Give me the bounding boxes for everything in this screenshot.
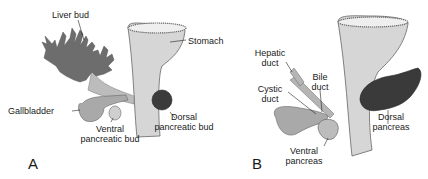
label-line: Ventral: [80, 124, 140, 134]
panel-letter-b: B: [252, 155, 262, 172]
label-stomach: Stomach: [188, 36, 224, 46]
label-line: Bile: [306, 72, 334, 82]
label-hepatic-duct: Hepatic duct: [250, 48, 290, 68]
label-line: Cystic: [252, 84, 288, 94]
panel-b-illustration: [274, 16, 421, 156]
label-line: Dorsal: [368, 112, 414, 122]
ventral-pancreatic-bud: [109, 106, 121, 120]
ventral-pancreas: [318, 119, 338, 139]
diagram-illustration: [0, 0, 428, 179]
label-line: Hepatic: [250, 48, 290, 58]
liver-bud: [42, 28, 114, 82]
label-cystic-duct: Cystic duct: [252, 84, 288, 104]
label-line: pancreatic bud: [152, 122, 216, 132]
label-dorsal-pancreas: Dorsal pancreas: [368, 112, 414, 132]
label-dorsal-pancreatic-bud: Dorsal pancreatic bud: [152, 112, 216, 132]
gallbladder-a: [79, 95, 128, 122]
dorsal-pancreatic-bud: [152, 90, 172, 110]
label-line: pancreatic bud: [80, 134, 140, 144]
label-line: duct: [250, 58, 290, 68]
panel-letter-a: A: [28, 155, 38, 172]
embryonic-foregut-diagram: Liver bud Stomach Gallbladder Ventral pa…: [0, 0, 428, 179]
label-liver-bud: Liver bud: [52, 10, 89, 20]
label-gallbladder: Gallbladder: [8, 106, 54, 116]
label-ventral-pancreas: Ventral pancreas: [280, 146, 328, 166]
label-line: Dorsal: [152, 112, 216, 122]
label-line: Ventral: [280, 146, 328, 156]
label-line: pancreas: [280, 156, 328, 166]
label-line: duct: [306, 82, 334, 92]
label-line: pancreas: [368, 122, 414, 132]
label-line: duct: [252, 94, 288, 104]
label-ventral-pancreatic-bud: Ventral pancreatic bud: [80, 124, 140, 144]
label-bile-duct: Bile duct: [306, 72, 334, 92]
